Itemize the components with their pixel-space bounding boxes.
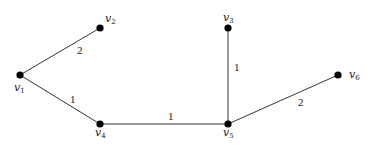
node-label-v1: v1 <box>14 81 25 95</box>
node-v6 <box>334 71 341 78</box>
edge-weight-v3-v5: 1 <box>234 61 240 73</box>
weighted-graph: 21112 v1v2v3v4v5v6 <box>0 0 370 148</box>
edge-v1-v2 <box>20 28 100 75</box>
edges-layer <box>20 28 338 124</box>
edge-v1-v4 <box>20 75 100 124</box>
node-label-v3: v3 <box>223 11 234 25</box>
edge-weight-v5-v6: 2 <box>298 96 304 108</box>
edge-weight-v1-v2: 2 <box>77 44 83 56</box>
node-v1 <box>16 71 23 78</box>
node-label-v4: v4 <box>95 126 106 140</box>
node-labels-layer: v1v2v3v4v5v6 <box>14 11 360 140</box>
nodes-layer <box>16 24 341 127</box>
node-label-v6: v6 <box>349 68 360 82</box>
node-label-v5: v5 <box>223 126 234 140</box>
edge-v5-v6 <box>228 75 338 124</box>
edge-weights-layer: 21112 <box>70 44 304 122</box>
edge-weight-v1-v4: 1 <box>70 93 76 105</box>
node-label-v2: v2 <box>105 12 116 26</box>
node-v3 <box>224 24 231 31</box>
edge-weight-v4-v5: 1 <box>168 110 174 122</box>
node-v2 <box>96 24 103 31</box>
